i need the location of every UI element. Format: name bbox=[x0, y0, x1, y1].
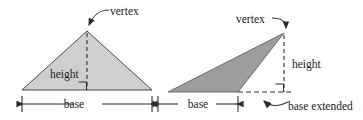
base-extended-label: base extended bbox=[288, 100, 353, 112]
acute-base-label: base bbox=[64, 98, 84, 110]
acute-height-label: height bbox=[50, 68, 80, 81]
base-extended-leader-arrow bbox=[264, 101, 288, 106]
obtuse-right-angle-icon bbox=[276, 84, 284, 92]
left-acute-triangle-group: vertex height base bbox=[22, 5, 152, 112]
obtuse-triangle-shape bbox=[168, 33, 284, 92]
diagram-canvas: vertex height base vertex height b bbox=[0, 0, 363, 120]
acute-vertex-label: vertex bbox=[110, 5, 139, 17]
acute-vertex-leader-arrow bbox=[89, 10, 109, 25]
obtuse-vertex-label: vertex bbox=[236, 13, 265, 25]
triangle-diagram-figure: vertex height base vertex height b bbox=[0, 0, 363, 120]
obtuse-height-label: height bbox=[292, 58, 322, 71]
right-obtuse-triangle-group: vertex height base base extended bbox=[158, 13, 353, 112]
obtuse-vertex-leader-arrow bbox=[272, 18, 286, 28]
obtuse-base-label: base bbox=[188, 98, 208, 110]
acute-triangle-shape bbox=[22, 31, 152, 90]
